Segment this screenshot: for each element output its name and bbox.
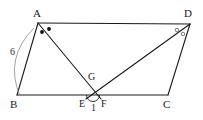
cevian-DE	[86, 24, 190, 99]
side-AD	[38, 23, 190, 24]
geometry-figure: A B C D E F G 6 1	[0, 0, 203, 120]
vertex-label-A: A	[33, 8, 41, 19]
point-label-G: G	[88, 72, 95, 82]
parallelogram-outline	[17, 23, 190, 95]
vertex-label-D: D	[184, 8, 192, 19]
length-label-6: 6	[10, 47, 15, 57]
open-circle-icon	[181, 32, 185, 36]
side-AB	[17, 23, 38, 95]
filled-dot-icon	[40, 30, 44, 34]
cevian-AF	[38, 23, 101, 99]
vertex-label-C: C	[163, 99, 170, 110]
vertex-label-F: F	[101, 99, 107, 109]
angle-label-1: 1	[91, 103, 96, 113]
vertex-label-B: B	[10, 99, 17, 110]
vertex-label-E: E	[79, 99, 85, 109]
filled-dot-icon	[47, 27, 51, 31]
side-DC	[168, 24, 190, 95]
length-brace-AB	[14, 28, 34, 96]
angle-arc-1	[87, 95, 100, 102]
cevian-lines	[38, 23, 190, 99]
open-circle-icon	[175, 28, 179, 32]
